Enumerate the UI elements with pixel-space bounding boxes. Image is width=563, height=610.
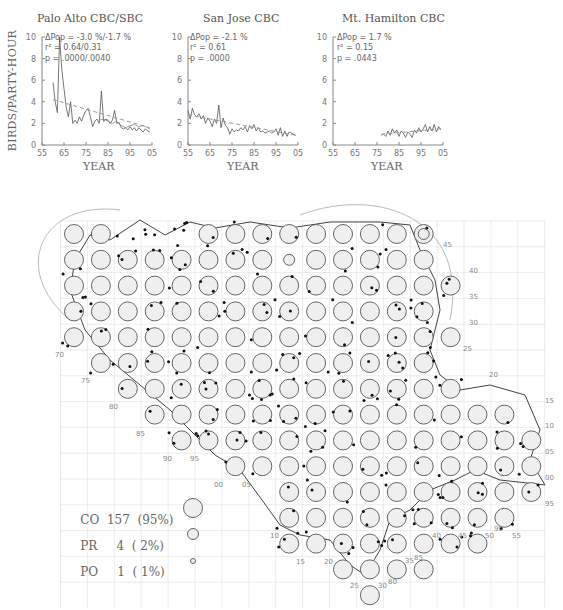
svg-text:6: 6 [31,76,36,85]
svg-text:2: 2 [322,119,327,128]
svg-text:55: 55 [37,149,47,158]
svg-text:65: 65 [350,149,360,158]
svg-text:85: 85 [414,554,423,562]
svg-text:75: 75 [81,377,90,385]
svg-text:85: 85 [103,149,113,158]
svg-text:25: 25 [463,345,472,353]
svg-text:95: 95 [416,149,426,158]
legend-pct: ( 1%) [133,565,165,579]
svg-text:95: 95 [545,500,554,508]
svg-text:35: 35 [469,293,478,301]
svg-text:4: 4 [322,98,327,107]
svg-text:15: 15 [296,558,305,566]
svg-text:2: 2 [177,119,182,128]
plot-0: 0246810556575859505 [26,33,157,158]
svg-text:15: 15 [545,397,554,405]
svg-text:75: 75 [227,149,237,158]
svg-text:95: 95 [125,149,135,158]
svg-text:30: 30 [469,319,478,327]
svg-text:10: 10 [270,532,279,540]
svg-text:70: 70 [55,351,64,359]
trend-plots: 0246810556575859505024681055657585950502… [0,0,563,180]
legend-medium-circle-icon [187,528,199,540]
legend-small-circle-icon [190,558,196,564]
svg-text:95: 95 [190,455,199,463]
svg-text:85: 85 [249,149,259,158]
legend-count: 1 [117,565,125,579]
svg-text:0: 0 [322,141,327,150]
svg-text:2: 2 [31,119,36,128]
svg-text:05: 05 [438,149,448,158]
svg-text:05: 05 [242,481,251,489]
svg-text:75: 75 [372,149,382,158]
svg-text:50: 50 [485,532,494,540]
svg-text:95: 95 [271,149,281,158]
svg-text:00: 00 [545,474,554,482]
svg-text:65: 65 [59,149,69,158]
plot-2: 0246810556575859505 [317,33,448,158]
svg-text:10: 10 [26,33,36,42]
svg-text:85: 85 [394,149,404,158]
svg-text:8: 8 [322,55,327,64]
svg-text:20: 20 [324,558,333,566]
svg-text:45: 45 [443,241,452,249]
svg-text:40: 40 [469,267,478,275]
svg-text:80: 80 [388,578,397,586]
svg-text:05: 05 [293,149,303,158]
svg-text:05: 05 [147,149,157,158]
svg-text:0: 0 [177,141,182,150]
svg-text:75: 75 [81,149,91,158]
legend-row-possible: PO 1 ( 1%) [65,551,165,593]
legend-code: PO [80,565,98,579]
svg-text:90: 90 [494,525,503,533]
svg-text:55: 55 [328,149,338,158]
svg-text:8: 8 [31,55,36,64]
svg-text:65: 65 [205,149,215,158]
svg-text:4: 4 [31,98,36,107]
svg-text:55: 55 [183,149,193,158]
svg-text:6: 6 [177,76,182,85]
svg-text:0: 0 [31,141,36,150]
svg-text:55: 55 [512,532,521,540]
svg-text:25: 25 [350,582,359,590]
svg-text:10: 10 [317,33,327,42]
svg-text:10: 10 [545,422,554,430]
svg-text:10: 10 [172,33,182,42]
legend-large-circle-icon [183,498,203,518]
svg-text:20: 20 [489,371,498,379]
plot-1: 0246810556575859505 [172,33,303,158]
svg-text:35: 35 [405,557,414,565]
svg-text:8: 8 [177,55,182,64]
svg-text:90: 90 [163,455,172,463]
svg-text:40: 40 [432,532,441,540]
svg-text:00: 00 [214,481,223,489]
svg-text:6: 6 [322,76,327,85]
svg-text:45: 45 [458,532,467,540]
svg-text:4: 4 [177,98,182,107]
svg-text:05: 05 [545,448,554,456]
svg-text:30: 30 [378,582,387,590]
svg-text:85: 85 [136,430,145,438]
svg-text:80: 80 [109,403,118,411]
